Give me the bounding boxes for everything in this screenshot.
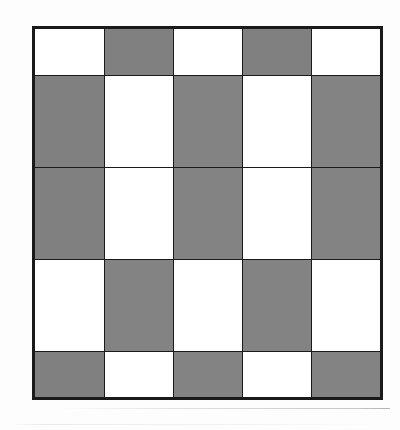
grid-table <box>35 29 380 397</box>
grid-row <box>35 29 380 75</box>
figure-canvas <box>0 0 400 430</box>
grid-cell-2-1 <box>35 75 104 167</box>
grid-cell-5-5 <box>311 351 380 397</box>
grid-cell-3-1 <box>35 167 104 259</box>
grid-cell-4-4 <box>242 259 311 351</box>
grid-cell-2-4 <box>242 75 311 167</box>
grid-cell-2-3 <box>173 75 242 167</box>
grid-cell-3-4 <box>242 167 311 259</box>
grid-cell-3-3 <box>173 167 242 259</box>
grid-cell-1-3 <box>173 29 242 75</box>
grid-cell-2-2 <box>104 75 173 167</box>
grid-row <box>35 167 380 259</box>
grid-row <box>35 259 380 351</box>
checkerboard-grid <box>32 26 383 400</box>
grid-cell-1-5 <box>311 29 380 75</box>
grid-cell-5-2 <box>104 351 173 397</box>
grid-row <box>35 351 380 397</box>
grid-cell-3-5 <box>311 167 380 259</box>
grid-cell-1-2 <box>104 29 173 75</box>
grid-cell-3-2 <box>104 167 173 259</box>
scan-artifact-line-upper <box>60 408 390 409</box>
grid-cell-4-5 <box>311 259 380 351</box>
grid-cell-4-2 <box>104 259 173 351</box>
grid-cell-4-1 <box>35 259 104 351</box>
grid-cell-2-5 <box>311 75 380 167</box>
grid-cell-5-3 <box>173 351 242 397</box>
scan-artifact-line-lower <box>10 424 390 425</box>
grid-cell-5-4 <box>242 351 311 397</box>
grid-cell-1-1 <box>35 29 104 75</box>
grid-cell-5-1 <box>35 351 104 397</box>
grid-row <box>35 75 380 167</box>
grid-body <box>35 29 380 397</box>
grid-cell-4-3 <box>173 259 242 351</box>
grid-cell-1-4 <box>242 29 311 75</box>
